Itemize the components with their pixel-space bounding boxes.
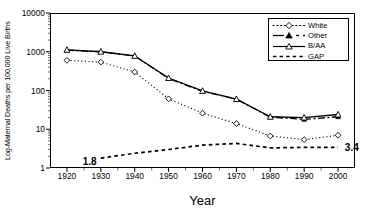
- y-tick-label: 100: [31, 86, 45, 96]
- legend-label-gap: GAP: [308, 53, 324, 61]
- x-tick-label: 1950: [159, 171, 178, 181]
- legend-label-other: Other: [308, 32, 327, 40]
- y-tick-label: 1000: [26, 47, 45, 57]
- x-tick-label: 1930: [92, 171, 111, 181]
- x-axis-tick-labels: 192019301940195019601970198019902000: [0, 171, 371, 185]
- legend-item-other: Other: [269, 31, 348, 41]
- x-tick-label: 1980: [261, 171, 280, 181]
- legend-item-white: White: [269, 21, 348, 31]
- x-axis-title: Year: [50, 193, 355, 208]
- legend-key-other: [272, 31, 306, 40]
- y-tick-label: 10000: [22, 8, 45, 18]
- x-tick-label: 1990: [295, 171, 314, 181]
- annotation-gap-start: 1.8: [83, 156, 97, 167]
- legend-item-baa: B/AA: [269, 41, 348, 51]
- x-tick-label: 1920: [58, 171, 77, 181]
- x-tick-label: 1960: [193, 171, 212, 181]
- legend-label-baa: B/AA: [308, 42, 325, 50]
- legend-key-gap: [272, 52, 306, 61]
- chart-legend: White Other B/AA: [268, 18, 349, 61]
- y-axis-tick-labels: 110100100010000: [8, 0, 49, 219]
- x-tick-label: 1970: [227, 171, 246, 181]
- legend-key-white: [272, 21, 306, 30]
- x-tick-label: 1940: [125, 171, 144, 181]
- legend-item-gap: GAP: [269, 52, 348, 62]
- x-tick-label: 2000: [329, 171, 348, 181]
- maternal-mortality-chart: Log-Maternal Deaths per 100,000 Live Bir…: [0, 0, 371, 219]
- legend-key-baa: [272, 42, 306, 51]
- annotation-gap-end: 3.4: [345, 142, 359, 153]
- legend-label-white: White: [308, 22, 327, 30]
- y-tick-label: 10: [36, 124, 45, 134]
